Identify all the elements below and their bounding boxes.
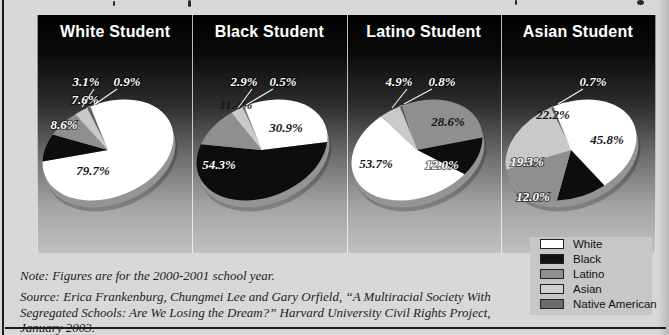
- note-text: Note: Figures are for the 2000-2001 scho…: [20, 268, 500, 284]
- pie-slice-label: 2.9%: [230, 74, 258, 89]
- segregation-pie-figure: 79.7%8.6%7.6%3.1%0.9%White Student30.9%5…: [0, 0, 669, 335]
- legend-swatch: [540, 284, 564, 294]
- pie-chart-svg: 0.8%28.6%12.0%53.7%4.9%: [347, 15, 501, 253]
- pie-panel-black-student: 30.9%54.3%11.4%2.9%0.5%Black Student: [192, 15, 346, 253]
- cropped-title-fragment: [113, 1, 115, 6]
- legend-label: White: [573, 238, 602, 250]
- pie-slice-label: 0.5%: [270, 74, 297, 89]
- cropped-title-fragment: [515, 0, 517, 5]
- legend-swatch: [540, 299, 564, 309]
- pie-slice-label: 0.7%: [579, 74, 606, 89]
- legend-row: White: [530, 237, 652, 252]
- pie-slice-label: 22.2%: [535, 107, 570, 122]
- cropped-title-fragment: [637, 0, 644, 5]
- legend-row: Latino: [530, 267, 652, 282]
- pie-slice-label: 0.8%: [428, 74, 455, 89]
- pie-title: Latino Student: [347, 23, 501, 41]
- legend-label: Asian: [573, 283, 602, 295]
- pie-slice-label: 12.0%: [516, 189, 550, 204]
- legend-row: Black: [530, 252, 652, 267]
- pie-slice-label: 79.7%: [76, 163, 110, 178]
- legend-row: Asian: [530, 281, 652, 296]
- cropped-title-fragment: [188, 0, 191, 7]
- pie-title: Black Student: [192, 23, 346, 41]
- chart-block: 79.7%8.6%7.6%3.1%0.9%White Student30.9%5…: [37, 15, 656, 253]
- pie-slice-label: 30.9%: [268, 120, 303, 135]
- pie-chart-svg: 45.8%12.0%19.3%22.2%0.7%: [501, 15, 655, 253]
- pie-chart-svg: 30.9%54.3%11.4%2.9%0.5%: [192, 15, 346, 253]
- source-text: Source: Erica Frankenburg, Chungmei Lee …: [20, 289, 528, 335]
- pie-slice-label: 19.3%: [510, 154, 544, 169]
- pie-slice-label: 28.6%: [430, 114, 465, 129]
- pie-slice-label: 8.6%: [50, 117, 77, 132]
- legend-row: Native American: [530, 296, 652, 311]
- pie-slice-label: 0.9%: [113, 74, 140, 89]
- legend-box: WhiteBlackLatinoAsianNative American: [530, 237, 652, 315]
- pie-slice-label: 45.8%: [589, 132, 624, 147]
- page-edge-shading: [658, 0, 669, 335]
- pie-panel-latino-student: 0.8%28.6%12.0%53.7%4.9%Latino Student: [347, 15, 501, 253]
- pie-slice-label: 54.3%: [202, 157, 236, 172]
- legend-swatch: [540, 269, 564, 279]
- figure-left-border: [2, 0, 4, 335]
- pie-slice-label: 12.0%: [425, 157, 459, 172]
- pie-slice-label: 4.9%: [384, 74, 412, 89]
- legend-swatch: [540, 254, 564, 264]
- pie-slice-label: 53.7%: [359, 156, 393, 171]
- pie-slice-label: 3.1%: [71, 74, 99, 89]
- pie-chart-svg: 79.7%8.6%7.6%3.1%0.9%: [38, 15, 192, 253]
- pie-title: Asian Student: [501, 23, 655, 41]
- legend-label: Latino: [573, 268, 604, 280]
- legend-swatch: [540, 239, 564, 249]
- legend-label: Native American: [573, 298, 657, 310]
- legend-label: Black: [573, 253, 601, 265]
- pie-panel-asian-student: 45.8%12.0%19.3%22.2%0.7%Asian Student: [501, 15, 655, 253]
- pie-panel-white-student: 79.7%8.6%7.6%3.1%0.9%White Student: [38, 15, 192, 253]
- pie-title: White Student: [38, 23, 192, 41]
